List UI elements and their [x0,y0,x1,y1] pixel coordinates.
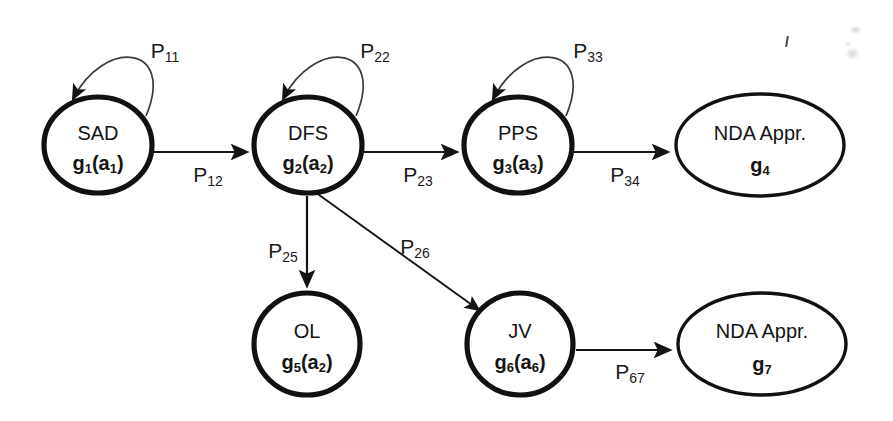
node-dfs-label: DFS [288,122,328,144]
node-jv[interactable]: JV g6(a6) [467,293,573,395]
node-sad[interactable]: SAD g1(a1) [44,97,152,193]
node-ol-label: OL [294,320,321,342]
node-sad-shape[interactable] [44,97,152,193]
node-dfs[interactable]: DFS g2(a2) [254,97,362,193]
node-jv-shape[interactable] [467,293,573,395]
edge-label-p26: P26 [400,235,430,261]
edge-label-p67: P67 [615,360,645,386]
node-nda-appr-g7-shape[interactable] [678,293,846,395]
node-nda-appr-g4[interactable]: NDA Appr. g4 [676,94,844,196]
node-group: SAD g1(a1) DFS g2(a2) PPS g3(a3) NDA App… [44,94,846,395]
node-ol[interactable]: OL g5(a2) [254,293,360,395]
node-jv-label: JV [508,320,532,342]
edge-label-p34: P34 [610,163,640,189]
node-sad-label: SAD [77,122,118,144]
node-dfs-shape[interactable] [254,97,362,193]
node-pps[interactable]: PPS g3(a3) [464,97,572,193]
edge-label-p25: P25 [268,239,298,265]
node-nda-appr-g4-shape[interactable] [676,94,844,196]
edge-label-p33: P33 [573,39,603,65]
edge-label-p12: P12 [193,163,223,189]
node-pps-shape[interactable] [464,97,572,193]
edge-p26-path[interactable] [315,192,479,310]
node-pps-label: PPS [498,122,538,144]
edge-group-diagonal [315,192,479,310]
node-nda-appr-g7-label: NDA Appr. [716,320,808,342]
edge-label-p23: P23 [403,163,433,189]
state-transition-diagram: SAD g1(a1) DFS g2(a2) PPS g3(a3) NDA App… [0,0,893,421]
edge-label-p22: P22 [360,39,390,65]
edge-label-p11: P11 [151,39,180,65]
node-nda-appr-g4-label: NDA Appr. [714,122,806,144]
node-ol-shape[interactable] [254,293,360,395]
diagram-canvas: SAD g1(a1) DFS g2(a2) PPS g3(a3) NDA App… [0,0,893,421]
node-nda-appr-g7[interactable]: NDA Appr. g7 [678,293,846,395]
